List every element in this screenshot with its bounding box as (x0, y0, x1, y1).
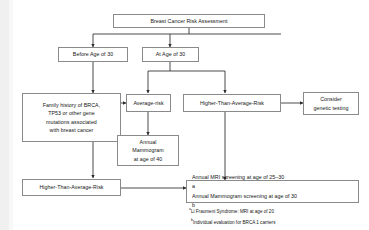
screening-line-1-superscript: a (192, 182, 356, 191)
node-higher-than-average-risk-bottom[interactable]: Higher-Than-Average-Risk (22, 179, 121, 196)
node-label-family-history-line-2: TP53 or other gene (48, 109, 95, 117)
node-annual-mammogram-age-40[interactable]: Annual Mammogram at age of 40 (117, 135, 179, 166)
footnote-b-text: Individual evaluation for BRCA 1 carrier… (193, 220, 275, 225)
screening-line-2-text: Annual Mammogram screening at age of 30 (192, 192, 356, 201)
node-consider-genetic-testing[interactable]: Consider genetic testing (303, 92, 359, 115)
screening-line-1-text: Annual MRI screening at age of 25–30 (192, 173, 356, 182)
footnote-a-text: Li Fraumeni Syndrome: MRI at age of 20 (191, 209, 274, 214)
node-label-family-history-line-4: with breast cancer (50, 126, 94, 134)
screening-line-1: Annual MRI screening at age of 25–30a (192, 173, 356, 192)
node-label-genetic-testing-line-1: Consider (320, 95, 342, 103)
node-label-root: Breast Cancer Risk Assessment (150, 17, 227, 25)
flowchart-canvas: Breast Cancer Risk Assessment Before Age… (0, 0, 369, 230)
node-label-family-history-line-3: mutations associated (46, 118, 97, 126)
footnote-b: bIndividual evaluation for BRCA 1 carrie… (191, 218, 275, 226)
node-screening-recommendations[interactable]: Annual MRI screening at age of 25–30a An… (186, 180, 359, 203)
node-before-age-30[interactable]: Before Age of 30 (58, 47, 128, 62)
node-at-age-30[interactable]: At Age of 30 (142, 47, 199, 62)
screening-lines: Annual MRI screening at age of 25–30a An… (189, 173, 356, 210)
node-breast-cancer-risk-assessment[interactable]: Breast Cancer Risk Assessment (113, 14, 265, 28)
node-label-higher-risk-top: Higher-Than-Average-Risk (200, 99, 264, 107)
node-label-mammogram40-line-3: at age of 40 (134, 155, 163, 163)
node-average-risk[interactable]: Average-risk (126, 94, 171, 112)
left-edge-band (0, 0, 9, 230)
node-label-genetic-testing-line-2: genetic testing (314, 104, 349, 112)
left-edge-band-soft (9, 0, 13, 230)
node-higher-than-average-risk-top[interactable]: Higher-Than-Average-Risk (183, 94, 281, 112)
node-label-average-risk: Average-risk (133, 99, 163, 107)
node-label-at-age-30: At Age of 30 (156, 50, 185, 58)
node-label-mammogram40-line-1: Annual (140, 138, 157, 146)
node-label-family-history-line-1: Family history of BRCA, (43, 101, 100, 109)
footnote-a: aLi Fraumeni Syndrome: MRI at age of 20 (189, 207, 274, 215)
node-label-before-age-30: Before Age of 30 (73, 50, 113, 58)
node-family-history[interactable]: Family history of BRCA, TP53 or other ge… (22, 93, 121, 142)
node-label-higher-risk-bottom: Higher-Than-Average-Risk (39, 183, 103, 191)
node-label-mammogram40-line-2: Mammogram (132, 146, 164, 154)
